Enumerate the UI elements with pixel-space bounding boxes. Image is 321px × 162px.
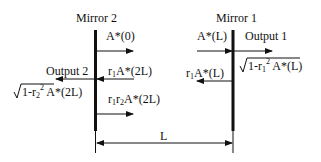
output-1-label: Output 1 — [245, 29, 287, 43]
mirror-1-label: Mirror 1 — [216, 11, 257, 25]
svg-text:1-r12 A*(L): 1-r12 A*(L) — [248, 57, 302, 74]
beam-aL-label: A*(L) — [197, 29, 227, 43]
beam-r1aL-label: r1A*(L) — [186, 66, 224, 81]
dimension-label: L — [160, 129, 167, 143]
transmitted-1-label: 1-r12 A*(L) — [240, 57, 302, 74]
optical-cavity-diagram: Mirror 2 Mirror 1 A*(0) A*(L) Output 1 r… — [0, 0, 321, 162]
output-2-label: Output 2 — [46, 64, 88, 78]
beam-a0-label: A*(0) — [106, 29, 135, 43]
transmitted-2-label: 1-r22 A*(2L) — [14, 83, 82, 100]
beam-r1a2L-label: r1A*(2L) — [108, 64, 152, 79]
svg-text:1-r22 A*(2L): 1-r22 A*(2L) — [22, 83, 82, 100]
beam-r1r2a2L-label: r1r2A*(2L) — [108, 92, 160, 107]
mirror-2-label: Mirror 2 — [76, 11, 117, 25]
